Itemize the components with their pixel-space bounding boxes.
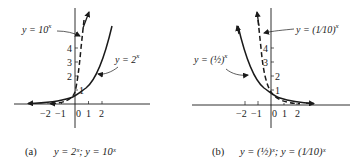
x-tick-label: 2 bbox=[99, 108, 104, 119]
y-tick-label: 3 bbox=[67, 57, 72, 68]
x-tick-label: −2 bbox=[236, 108, 247, 119]
caption-a-tag: (a) bbox=[25, 146, 37, 158]
y-tick-label: 3 bbox=[263, 57, 268, 68]
leader-arrow-icon bbox=[264, 29, 294, 33]
x-tick-label: 0 bbox=[272, 108, 277, 119]
panel-a: −2 −1 0 1 2 1 2 3 4 y = 10x y = 2x bbox=[14, 8, 150, 128]
y-tick-marks bbox=[271, 48, 274, 90]
y-tick-label: 2 bbox=[275, 71, 280, 82]
x-tick-label: 1 bbox=[86, 108, 91, 119]
x-tick-label: 1 bbox=[282, 108, 287, 119]
caption-a-text: y = 2ˣ; y = 10ˣ bbox=[53, 146, 117, 157]
leader-arrow-icon bbox=[98, 67, 118, 74]
x-tick-label: −1 bbox=[251, 108, 262, 119]
leader-arrow-icon bbox=[57, 31, 80, 36]
y-tick-label: 4 bbox=[263, 43, 268, 54]
caption-b-text: y = (½)ˣ; y = (1⁄10)ˣ bbox=[239, 146, 326, 158]
label-tenth-pow-x: y = (1⁄10)x bbox=[295, 22, 340, 36]
x-tick-label: 0 bbox=[76, 108, 81, 119]
caption-b-tag: (b) bbox=[212, 146, 225, 158]
y-tick-label: 2 bbox=[67, 71, 72, 82]
label-2-pow-x: y = 2x bbox=[114, 52, 140, 65]
y-tick-label: 1 bbox=[275, 85, 280, 96]
y-tick-label: 4 bbox=[67, 43, 72, 54]
label-half-pow-x: y = (½)x bbox=[193, 52, 228, 66]
panel-b: −2 −1 0 1 2 1 2 3 4 y = (1⁄10)x y = (½)x bbox=[192, 8, 350, 128]
x-tick-label: −2 bbox=[40, 108, 51, 119]
leader-arrow-icon bbox=[226, 69, 248, 75]
exponential-graphs-figure: −2 −1 0 1 2 1 2 3 4 y = 10x y = 2x bbox=[0, 0, 357, 165]
x-tick-label: −1 bbox=[55, 108, 66, 119]
label-10-pow-x: y = 10x bbox=[21, 22, 52, 35]
x-tick-label: 2 bbox=[295, 108, 300, 119]
